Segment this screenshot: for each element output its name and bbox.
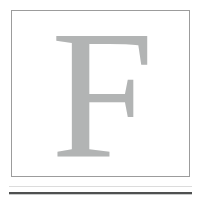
dropcap-letter: F (12, 1, 189, 186)
dark-rule-shadow (9, 194, 192, 195)
dropcap-frame: F (11, 10, 190, 177)
horizontal-rules-group (9, 186, 192, 195)
page-canvas: F (0, 0, 201, 204)
